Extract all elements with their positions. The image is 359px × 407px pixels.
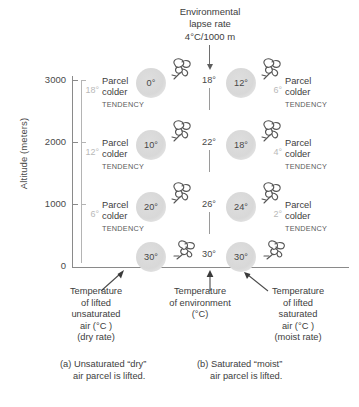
- y-tick-1000: [72, 204, 78, 205]
- moist-temp-1000: 24°: [226, 192, 256, 222]
- moist-temp-3000: 12°: [226, 68, 256, 98]
- balloon-sketch-icon: [253, 118, 287, 148]
- right-colder-word-1000: colder: [285, 211, 351, 222]
- moist-parcel-1000: 24°: [226, 192, 256, 222]
- left-tendency-word-2000: TENDENCY: [102, 161, 168, 172]
- dry-temp-3000: 0°: [136, 68, 166, 98]
- x-axis-line: [72, 267, 349, 268]
- lapse-rate-figure: Environmental lapse rate 4°C/1000 m 3000…: [0, 0, 359, 407]
- y-axis-title: Altitude (meters): [18, 94, 29, 214]
- right-tendency-word-2000: TENDENCY: [285, 161, 351, 172]
- caption-a-line-2: air parcel is lifted.: [60, 371, 146, 383]
- caption-b-line-1: (b) Saturated “moist”: [197, 359, 282, 371]
- balloon-sketch-icon: [163, 118, 197, 148]
- env-temp-1000: 26°: [194, 199, 224, 209]
- right-parcel-word-3000: Parcel: [285, 76, 351, 87]
- right-parcel-word-2000: Parcel: [285, 138, 351, 149]
- dry-callout-line-4: air (°C ): [48, 321, 144, 333]
- center-guide-1000: [209, 212, 210, 234]
- center-guide-3000: [209, 88, 210, 110]
- right-colder-word-3000: colder: [285, 87, 351, 98]
- header-line-3: 4°C/1000 m: [150, 31, 270, 43]
- env-temp-2000: 22°: [194, 137, 224, 147]
- bracket-tick-3000: [81, 80, 86, 81]
- dry-temp-2000: 10°: [136, 130, 166, 160]
- moist-temp-0: 30°: [226, 242, 256, 272]
- y-tick-2000: [72, 142, 78, 143]
- moist-parcel-2000: 18°: [226, 130, 256, 160]
- left-delta-2000: 12°: [82, 147, 99, 158]
- environmental-lapse-arrow-icon: [209, 45, 211, 71]
- dry-callout-label: Temperature of lifted unsaturated air (°…: [48, 286, 144, 344]
- balloon-sketch-icon: [163, 56, 197, 86]
- dry-temp-0: 30°: [136, 242, 166, 272]
- right-tendency-word-1000: TENDENCY: [285, 223, 351, 234]
- moist-callout-line-1: Temperature: [250, 286, 346, 298]
- left-delta-1000: 6°: [82, 209, 99, 220]
- env-temp-0: 30°: [194, 249, 224, 259]
- balloon-sketch-icon: [258, 236, 292, 266]
- balloon-sketch-icon: [253, 180, 287, 210]
- left-delta-3000: 18°: [82, 85, 99, 96]
- right-delta-1000: 2°: [265, 209, 282, 220]
- y-label-0: 0: [20, 260, 66, 271]
- dry-parcel-3000: 0°: [136, 68, 166, 98]
- right-parcel-word-1000: Parcel: [285, 200, 351, 211]
- caption-b-line-2: air parcel is lifted.: [197, 371, 282, 383]
- moist-callout-label: Temperature of lifted saturated air (°C …: [250, 286, 346, 344]
- moist-callout-line-2: of lifted: [250, 298, 346, 310]
- header-line-2: lapse rate: [150, 18, 270, 30]
- header-line-1: Environmental: [150, 6, 270, 18]
- right-tendency-word-3000: TENDENCY: [285, 99, 351, 110]
- right-delta-2000: 4°: [265, 147, 282, 158]
- bracket-tick-1000: [81, 204, 86, 205]
- dry-callout-line-1: Temperature: [48, 286, 144, 298]
- dry-callout-line-2: of lifted: [48, 298, 144, 310]
- plot-bracket: [81, 80, 82, 263]
- moist-callout-line-3: saturated: [250, 309, 346, 321]
- moist-parcel-3000: 12°: [226, 68, 256, 98]
- moist-temp-2000: 18°: [226, 130, 256, 160]
- dry-parcel-2000: 10°: [136, 130, 166, 160]
- dry-temp-1000: 20°: [136, 192, 166, 222]
- balloon-sketch-icon: [163, 180, 197, 210]
- left-tendency-word-1000: TENDENCY: [102, 223, 168, 234]
- y-tick-3000: [72, 80, 78, 81]
- y-label-3000: 3000: [20, 74, 66, 85]
- balloon-sketch-icon: [253, 56, 287, 86]
- moist-callout-line-5: (moist rate): [250, 332, 346, 344]
- dry-callout-line-5: (dry rate): [48, 332, 144, 344]
- bracket-tick-2000: [81, 142, 86, 143]
- moist-callout-line-4: air (°C ): [250, 321, 346, 333]
- env-temp-3000: 18°: [194, 75, 224, 85]
- dry-parcel-1000: 20°: [136, 192, 166, 222]
- env-callout-line-3: (°C): [152, 309, 248, 321]
- caption-a: (a) Unsaturated “dry” air parcel is lift…: [60, 359, 146, 382]
- header-label: Environmental lapse rate 4°C/1000 m: [150, 6, 270, 43]
- dry-callout-line-3: unsaturated: [48, 309, 144, 321]
- y-axis-line: [72, 76, 73, 267]
- env-callout-label: Temperature of environment (°C): [152, 286, 248, 321]
- env-callout-line-2: of environment: [152, 298, 248, 310]
- caption-a-line-1: (a) Unsaturated “dry”: [60, 359, 146, 371]
- env-callout-line-1: Temperature: [152, 286, 248, 298]
- dry-parcel-0: 30°: [136, 242, 166, 272]
- center-guide-2000: [209, 150, 210, 172]
- left-tendency-word-3000: TENDENCY: [102, 99, 168, 110]
- right-colder-word-2000: colder: [285, 149, 351, 160]
- right-delta-3000: 6°: [265, 85, 282, 96]
- caption-b: (b) Saturated “moist” air parcel is lift…: [197, 359, 282, 382]
- moist-parcel-0: 30°: [226, 242, 256, 272]
